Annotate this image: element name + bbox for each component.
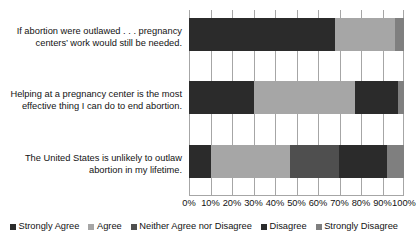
legend-item-label: Strongly Agree bbox=[18, 221, 79, 232]
bar-segment[interactable] bbox=[189, 81, 254, 114]
legend-item[interactable]: Strongly Disagree bbox=[316, 221, 398, 232]
bar-segment[interactable] bbox=[211, 145, 291, 178]
bar-segment[interactable] bbox=[335, 18, 395, 51]
table-row[interactable] bbox=[189, 145, 404, 178]
table-row[interactable] bbox=[189, 81, 404, 114]
legend-item-label: Agree bbox=[97, 221, 122, 232]
legend-item-label: Disagree bbox=[269, 221, 306, 232]
x-axis-tick-label: 20% bbox=[223, 198, 242, 209]
legend-swatch-icon bbox=[316, 224, 322, 230]
bar-segment[interactable] bbox=[189, 18, 335, 51]
x-axis-tick-label: 100% bbox=[392, 198, 416, 209]
x-axis-tick-label: 80% bbox=[352, 198, 371, 209]
bar-segment[interactable] bbox=[254, 81, 355, 114]
plot-area bbox=[189, 10, 404, 196]
category-label: The United States is unlikely to outlaw … bbox=[0, 152, 182, 177]
x-axis-line bbox=[189, 195, 404, 196]
bar-segment[interactable] bbox=[387, 145, 404, 178]
category-axis-labels: If abortion were outlawed . . . pregnanc… bbox=[0, 0, 186, 200]
plot-wrapper: If abortion were outlawed . . . pregnanc… bbox=[0, 0, 408, 200]
x-axis-tick-labels: 0%10%20%30%40%50%60%70%80%90%100% bbox=[189, 198, 404, 212]
legend-item[interactable]: Disagree bbox=[261, 221, 307, 232]
legend-swatch-icon bbox=[10, 224, 16, 230]
x-axis-tick-label: 50% bbox=[287, 198, 306, 209]
x-axis-tick-label: 0% bbox=[182, 198, 195, 209]
category-label: If abortion were outlawed . . . pregnanc… bbox=[0, 25, 182, 50]
legend-item[interactable]: Agree bbox=[88, 221, 121, 232]
x-axis-tick-label: 60% bbox=[309, 198, 328, 209]
legend-swatch-icon bbox=[261, 224, 267, 230]
x-axis-tick-label: 30% bbox=[244, 198, 263, 209]
x-axis-tick-label: 40% bbox=[266, 198, 285, 209]
table-row[interactable] bbox=[189, 18, 404, 51]
bar-segment[interactable] bbox=[189, 145, 211, 178]
chart-legend: Strongly AgreeAgreeNeither Agree nor Dis… bbox=[0, 219, 408, 234]
x-axis-tick-label: 70% bbox=[330, 198, 349, 209]
x-axis-tick-label: 10% bbox=[201, 198, 220, 209]
bar-segment[interactable] bbox=[395, 18, 404, 51]
legend-item[interactable]: Strongly Agree bbox=[10, 221, 79, 232]
legend-swatch-icon bbox=[88, 224, 94, 230]
legend-item-label: Neither Agree nor Disagree bbox=[139, 221, 252, 232]
bar-segment[interactable] bbox=[290, 145, 339, 178]
legend-swatch-icon bbox=[131, 224, 137, 230]
legend-item[interactable]: Neither Agree nor Disagree bbox=[131, 221, 252, 232]
bar-segment[interactable] bbox=[339, 145, 386, 178]
category-label: Helping at a pregnancy center is the mos… bbox=[0, 88, 182, 113]
x-axis-tick-label: 90% bbox=[373, 198, 392, 209]
bar-segment[interactable] bbox=[355, 81, 398, 114]
legend-item-label: Strongly Disagree bbox=[324, 221, 398, 232]
bar-segment[interactable] bbox=[398, 81, 404, 114]
